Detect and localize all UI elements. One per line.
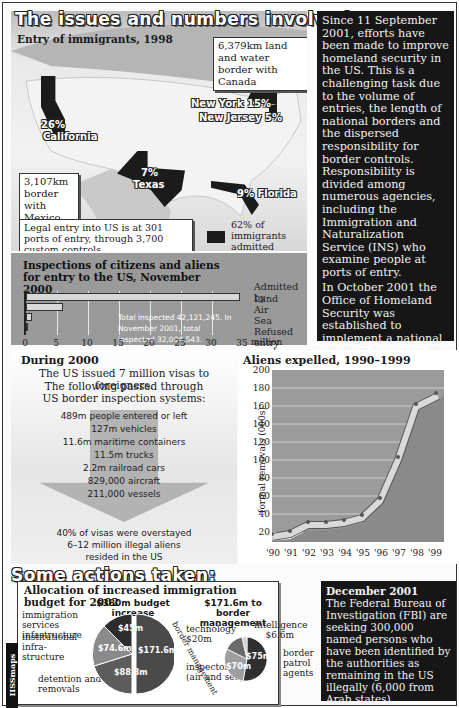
iiss-maps-brand: IISSmaps	[6, 643, 18, 708]
x-tick: '91	[284, 548, 298, 558]
texas-label: Texas	[133, 179, 164, 190]
label-border-patrol: border patrol agents	[283, 648, 309, 678]
illegal-aliens-text: 6–12 million illegal aliens	[11, 540, 237, 550]
label-institutional: institutional infra- structure	[22, 632, 66, 662]
x-tick: '99	[428, 548, 442, 558]
y-tick: 160	[253, 401, 270, 411]
immigration-map: 26% California New York 15% New Jersey 5…	[11, 11, 307, 251]
bar-refused	[26, 323, 28, 331]
y-tick: 100	[253, 455, 270, 465]
category-land: Land	[254, 293, 278, 304]
value-45m: $45m	[118, 624, 143, 633]
x-tick: 10	[81, 338, 92, 348]
california-pct: 26%	[41, 119, 65, 130]
x-tick: 5	[53, 338, 59, 348]
list-item: 2.2m railroad cars	[11, 463, 237, 473]
aliens-expelled-chart: Aliens expelled, 1990–1999 formal remova…	[239, 350, 458, 564]
value-171m: $171.6m	[138, 646, 177, 655]
x-tick: 30	[205, 338, 216, 348]
new-jersey-label: New Jersey 5%	[199, 112, 282, 123]
y-tick: 40	[259, 509, 270, 519]
list-item: 829,000 aircraft	[11, 476, 237, 486]
list-item: 11.5m trucks	[11, 450, 237, 460]
x-tick: '95	[356, 548, 370, 558]
value-75m: $75m	[246, 652, 271, 661]
y-tick: 200	[253, 365, 270, 375]
x-tick: '97	[392, 548, 406, 558]
december-title: December 2001	[326, 585, 451, 597]
y-tick: 120	[253, 437, 270, 447]
legend-swatch	[207, 231, 225, 243]
budget-allocation-panel: Allocation of increased immigration budg…	[17, 581, 279, 705]
y-tick: 20	[259, 527, 270, 537]
inspections-title: Inspections of citizens and aliens for e…	[23, 259, 223, 295]
y-tick: 180	[253, 383, 270, 393]
legend-text: 62% of immigrants admitted through five …	[231, 219, 307, 251]
x-tick: '94	[338, 548, 352, 558]
page-title: The issues and numbers involved:	[15, 9, 358, 29]
bar-air	[26, 303, 63, 311]
bar-land	[26, 293, 240, 301]
california-label: California	[43, 131, 97, 142]
bar-sea	[26, 313, 32, 321]
during-title: During 2000	[21, 354, 99, 367]
new-york-label: New York 15%	[191, 98, 271, 109]
map-subtitle: Entry of immigrants, 1998	[17, 33, 173, 45]
category-air: Air	[254, 304, 268, 315]
value-70m: $70m	[226, 662, 251, 671]
december-text: The Federal Bureau of Investigation (FBI…	[326, 597, 451, 705]
x-tick: '93	[320, 548, 334, 558]
homeland-security-text-box: Since 11 September 2001, efforts have be…	[317, 11, 454, 341]
texas-pct: 7%	[141, 167, 158, 178]
y-tick: 80	[259, 473, 270, 483]
y-tick: 140	[253, 419, 270, 429]
x-tick: '90	[266, 548, 280, 558]
value-88m: $88.8m	[114, 668, 148, 677]
homeland-security-paragraph-1: Since 11 September 2001, efforts have be…	[322, 15, 449, 279]
x-tick: '92	[302, 548, 316, 558]
x-tick: '98	[410, 548, 424, 558]
list-item: 11.6m maritime containers	[11, 437, 237, 447]
x-tick: 15	[112, 338, 123, 348]
inspections-chart: Inspections of citizens and aliens for e…	[11, 253, 307, 345]
x-tick: 20	[143, 338, 154, 348]
list-item: 127m vehicles	[11, 424, 237, 434]
during-2000-panel: During 2000 The US issued 7 million visa…	[11, 350, 237, 564]
resided-text: resided in the US	[11, 552, 237, 562]
aliens-line-plot	[272, 370, 444, 542]
inspection-intro-text: The following passed through US border i…	[11, 380, 237, 404]
x-tick: 35	[236, 338, 247, 348]
december-2001-box: December 2001 The Federal Bureau of Inve…	[321, 581, 456, 701]
overstayed-text: 40% of visas were overstayed	[11, 528, 237, 538]
x-tick: 25	[174, 338, 185, 348]
ports-of-entry-note: Legal entry into US is at 301 ports of e…	[19, 219, 193, 251]
category-sea: Sea	[254, 315, 272, 326]
x-tick: 0	[22, 338, 28, 348]
infographic-frame: 26% California New York 15% New Jersey 5…	[2, 2, 457, 706]
list-item: 489m people entered or left	[11, 411, 237, 421]
list-item: 211,000 vessels	[11, 489, 237, 499]
inspections-plot: Total inspected 42,121,245. In November …	[24, 291, 244, 335]
brand-label: IISSmaps	[7, 645, 17, 705]
y-tick: 60	[259, 491, 270, 501]
value-74m: $74.6m	[98, 644, 132, 653]
x-tick: '96	[374, 548, 388, 558]
florida-label: 9% Florida	[237, 188, 297, 199]
canada-border-callout: 6,379km land and water border with Canad…	[213, 37, 307, 91]
